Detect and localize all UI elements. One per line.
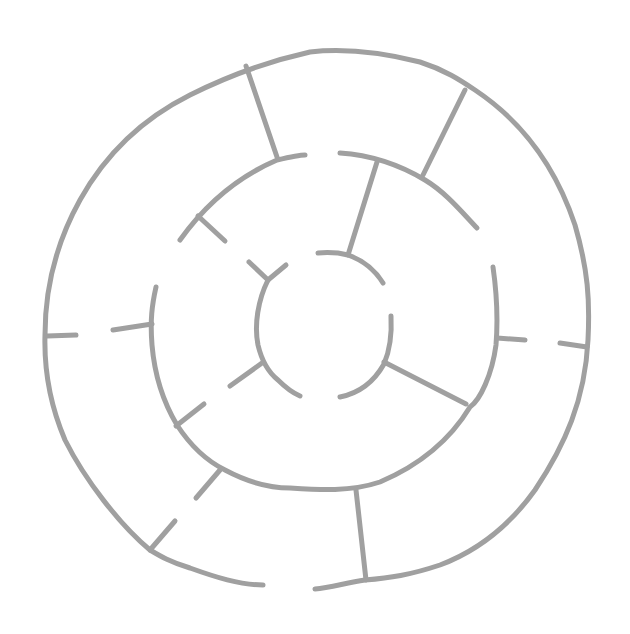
maze-walls [45,50,589,589]
outer-stub-right [560,343,587,347]
inner-ring-top [318,253,383,283]
outer-radial-top-right [423,90,465,175]
inner-radial-left-bottom [230,363,262,386]
middle-ring-top-left [180,155,305,240]
outer-radial-top-left [246,66,277,157]
inner-radial-right [384,362,466,404]
circular-maze [0,0,630,634]
middle-radial-left-lower [176,404,204,426]
inner-radial-left-top-a [249,262,268,280]
middle-radial-left-upper [198,216,225,241]
outer-radial-bottom [356,490,366,580]
outer-ring-wall [45,50,589,589]
middle-ring-stub-left [113,324,152,330]
middle-radial-bottom-left [196,470,220,498]
outer-stub-left [47,335,76,336]
middle-ring-stub-right [497,338,525,340]
middle-ring-right [151,267,497,490]
inner-ring-left [256,280,300,396]
inner-radial-left-top-b [268,265,286,280]
inner-ring-right [340,316,391,397]
outer-stub-bottom-left [150,521,175,550]
inner-radial-top [348,162,377,255]
